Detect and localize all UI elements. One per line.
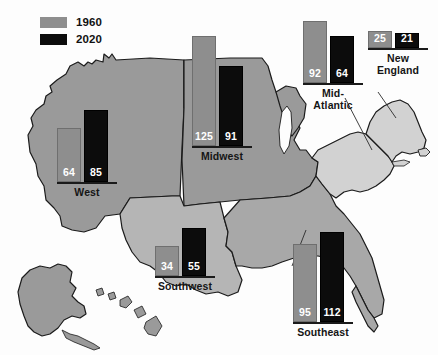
region-label-southeast: Southeast (293, 327, 353, 339)
region-label-new-england-line1: New (387, 52, 409, 64)
map-feature-cape-cod (418, 148, 430, 156)
bars-west: 64 85 (57, 108, 117, 182)
region-group-mid-atlantic: 92 64 Mid- Atlantic (303, 21, 363, 111)
infographic-map-chart: 1960 2020 64 85 West 125 91 (0, 0, 438, 355)
region-group-southeast: 95 112 Southeast (293, 232, 353, 339)
bar-value-west-1960: 64 (58, 166, 80, 178)
region-label-west: West (57, 187, 117, 199)
bar-west-2020: 85 (84, 110, 108, 182)
map-feature-hawaii (96, 288, 162, 336)
baseline-new-england (368, 48, 428, 50)
bar-southwest-2020: 55 (182, 228, 206, 276)
bar-value-mid-atlantic-2020: 64 (331, 67, 353, 79)
bar-new-england-1960: 25 (368, 31, 392, 48)
bar-west-1960: 64 (57, 128, 81, 182)
map-feature-alaska (18, 264, 86, 336)
legend-label-2020: 2020 (76, 34, 102, 45)
legend: 1960 2020 (40, 16, 102, 50)
bars-southwest: 34 55 (155, 228, 215, 276)
region-group-west: 64 85 West (57, 108, 117, 199)
bar-value-new-england-2020: 21 (396, 32, 418, 44)
map-feature-aleutians (62, 330, 100, 350)
bar-value-southwest-2020: 55 (183, 260, 205, 272)
bar-value-southeast-2020: 112 (321, 306, 343, 318)
bar-value-southeast-1960: 95 (294, 306, 316, 318)
baseline-midwest (192, 146, 252, 148)
baseline-west (57, 182, 117, 184)
bar-value-west-2020: 85 (85, 166, 107, 178)
bar-value-new-england-1960: 25 (369, 32, 391, 44)
bar-value-midwest-2020: 91 (220, 130, 242, 142)
bar-value-midwest-1960: 125 (193, 130, 215, 142)
baseline-southwest (155, 276, 215, 278)
legend-item-2020: 2020 (40, 33, 102, 46)
region-label-new-england-line2: England (377, 64, 419, 76)
legend-swatch-1960-icon (40, 17, 67, 28)
bars-midwest: 125 91 (192, 36, 252, 146)
legend-label-1960: 1960 (76, 17, 102, 28)
region-group-midwest: 125 91 Midwest (192, 36, 252, 163)
legend-swatch-2020-icon (40, 34, 67, 45)
bar-southwest-1960: 34 (155, 246, 179, 276)
bars-mid-atlantic: 92 64 (303, 21, 363, 83)
bars-southeast: 95 112 (293, 232, 353, 322)
bar-southeast-2020: 112 (320, 232, 344, 322)
region-label-midwest: Midwest (192, 151, 252, 163)
bar-southeast-1960: 95 (293, 244, 317, 322)
bar-new-england-2020: 21 (395, 33, 419, 48)
bars-new-england: 25 21 (368, 31, 428, 48)
bar-midwest-1960: 125 (192, 36, 216, 146)
region-group-southwest: 34 55 Southwest (155, 228, 215, 293)
region-label-mid-atlantic-line2: Atlantic (313, 99, 352, 111)
map-feature-long-island (392, 160, 410, 166)
bar-mid-atlantic-2020: 64 (330, 36, 354, 83)
region-label-mid-atlantic: Mid- Atlantic (303, 88, 363, 111)
baseline-southeast (293, 322, 353, 324)
bar-value-mid-atlantic-1960: 92 (304, 67, 326, 79)
region-label-mid-atlantic-line1: Mid- (322, 87, 344, 99)
baseline-mid-atlantic (303, 83, 363, 85)
bar-value-southwest-1960: 34 (156, 260, 178, 272)
bar-midwest-2020: 91 (219, 66, 243, 146)
region-label-southwest: Southwest (155, 281, 215, 293)
legend-item-1960: 1960 (40, 16, 102, 29)
bar-mid-atlantic-1960: 92 (303, 21, 327, 83)
region-group-new-england: 25 21 New England (368, 31, 428, 76)
region-label-new-england: New England (368, 53, 428, 76)
